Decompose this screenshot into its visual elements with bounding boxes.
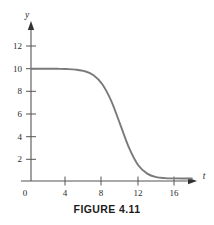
- y-tick-label-8: 8: [18, 86, 23, 96]
- x-tick-label-12: 12: [134, 188, 143, 198]
- y-tick-label-12: 12: [13, 41, 22, 51]
- x-tick-label-4: 4: [63, 188, 68, 198]
- figure-container: 2 4 6 8 10 12 0 4 8 12 16 y t FIGURE 4.1…: [0, 0, 214, 225]
- y-axis-arrow-icon: [28, 21, 34, 30]
- x-axis-label: t: [203, 171, 206, 181]
- x-tick-label-8: 8: [99, 188, 104, 198]
- x-tick-label-16: 16: [170, 188, 180, 198]
- figure-caption: FIGURE 4.11: [0, 203, 214, 215]
- x-tick-label-0: 0: [23, 188, 28, 198]
- chart-svg: 2 4 6 8 10 12 0 4 8 12 16 y t: [0, 0, 214, 200]
- y-tick-label-2: 2: [18, 154, 23, 164]
- y-tick-label-10: 10: [13, 64, 23, 74]
- plot-area: 2 4 6 8 10 12 0 4 8 12 16 y t: [0, 0, 214, 200]
- y-tick-label-6: 6: [18, 109, 23, 119]
- data-curve: [31, 69, 192, 179]
- y-tick-label-4: 4: [18, 132, 23, 142]
- y-axis: [28, 21, 34, 181]
- y-axis-label: y: [24, 10, 30, 20]
